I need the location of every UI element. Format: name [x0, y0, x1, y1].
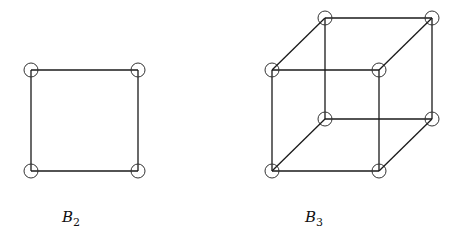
b3-label-letter: B [305, 208, 316, 226]
b3-graph [265, 11, 439, 178]
b2-label: B2 [62, 208, 80, 229]
b2-label-subscript: 2 [73, 216, 80, 229]
b2-graph [24, 63, 145, 178]
graph-edge [272, 119, 325, 171]
graph-edge [379, 18, 432, 70]
b3-label-subscript: 3 [316, 216, 323, 229]
graph-edge [379, 119, 432, 171]
hypercube-diagram-canvas [0, 0, 457, 229]
b3-label: B3 [305, 208, 323, 229]
graph-edge [272, 18, 325, 70]
b2-label-letter: B [62, 208, 73, 226]
